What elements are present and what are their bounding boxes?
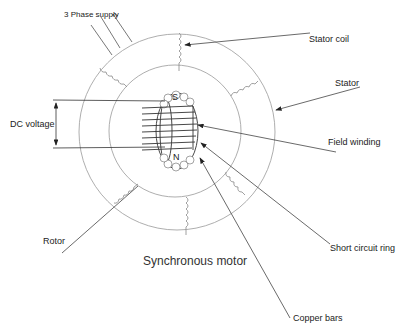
field-winding: [142, 106, 197, 150]
leader-lines: [62, 15, 360, 318]
diagram-title: Synchronous motor: [143, 254, 247, 268]
label-dc-voltage: DC voltage: [10, 119, 55, 129]
label-stator-coil: Stator coil: [309, 34, 349, 44]
pole-north: N: [173, 152, 180, 162]
diagram-graphic: [0, 0, 399, 330]
label-copper-bars: Copper bars: [293, 313, 343, 323]
label-rotor: Rotor: [43, 236, 65, 246]
pole-south: S: [172, 92, 178, 102]
label-3-phase-supply: 3 Phase supply: [64, 10, 119, 19]
label-field-winding: Field winding: [328, 137, 381, 147]
label-short-circuit-ring: Short circuit ring: [330, 243, 395, 253]
synchronous-motor-diagram: 3 Phase supply Stator coil Stator DC vol…: [0, 0, 399, 330]
stator-outer-ring: [79, 34, 275, 230]
label-stator: Stator: [335, 78, 359, 88]
stator-coils: [100, 33, 258, 235]
